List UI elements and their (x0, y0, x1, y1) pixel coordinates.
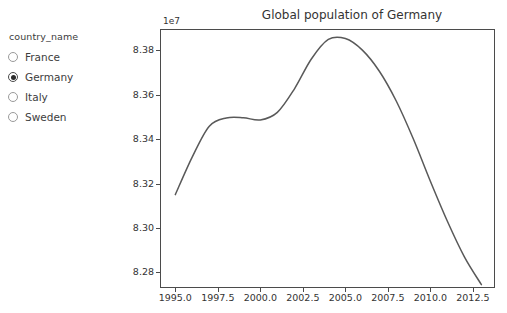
radio-label-germany: Germany (25, 70, 73, 84)
y-tick-mark (156, 139, 160, 140)
x-tick-mark (388, 288, 389, 292)
radio-circle-icon[interactable] (8, 92, 18, 102)
app-root: country_name France Germany Italy Sweden… (0, 0, 507, 313)
x-tick-mark (345, 288, 346, 292)
country-name-radio-group[interactable]: country_name France Germany Italy Sweden (8, 31, 128, 128)
x-tick-mark (303, 288, 304, 292)
radio-label-france: France (25, 50, 60, 64)
x-tick-label: 2007.5 (371, 292, 404, 303)
chart-title: Global population of Germany (232, 8, 472, 22)
radio-option-france[interactable]: France (8, 48, 128, 66)
y-tick-label: 8.32 (133, 178, 154, 189)
y-tick-mark (156, 272, 160, 273)
x-tick-label: 2012.5 (456, 292, 489, 303)
y-tick-mark (156, 95, 160, 96)
y-tick-label: 8.30 (133, 222, 154, 233)
x-tick-label: 2010.0 (414, 292, 447, 303)
radio-option-germany[interactable]: Germany (8, 68, 128, 86)
x-tick-mark (218, 288, 219, 292)
y-axis-offset-label: 1e7 (163, 16, 180, 27)
x-tick-label: 2005.0 (329, 292, 362, 303)
x-tick-label: 1997.5 (201, 292, 234, 303)
radio-circle-selected-icon[interactable] (8, 72, 18, 82)
series-line-germany (160, 29, 495, 288)
x-tick-label: 2002.5 (286, 292, 319, 303)
x-tick-mark (430, 288, 431, 292)
x-tick-label: 1995.0 (159, 292, 192, 303)
y-tick-label: 8.38 (133, 44, 154, 55)
x-tick-mark (473, 288, 474, 292)
y-tick-label: 8.34 (133, 133, 154, 144)
radio-circle-icon[interactable] (8, 112, 18, 122)
x-tick-mark (175, 288, 176, 292)
y-tick-mark (156, 184, 160, 185)
country-name-group-label: country_name (9, 31, 128, 43)
x-tick-mark (260, 288, 261, 292)
y-tick-mark (156, 50, 160, 51)
radio-label-italy: Italy (25, 90, 48, 104)
radio-option-italy[interactable]: Italy (8, 88, 128, 106)
plot-frame (160, 29, 495, 288)
x-tick-label: 2000.0 (244, 292, 277, 303)
y-tick-label: 8.36 (133, 89, 154, 100)
radio-option-sweden[interactable]: Sweden (8, 108, 128, 126)
y-tick-mark (156, 228, 160, 229)
radio-circle-icon[interactable] (8, 52, 18, 62)
series-path-germany (175, 37, 481, 285)
y-tick-label: 8.28 (133, 266, 154, 277)
radio-label-sweden: Sweden (25, 110, 67, 124)
